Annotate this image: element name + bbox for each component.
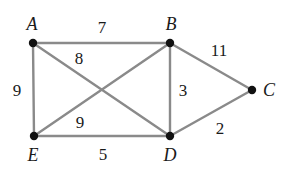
graph-vertex [29, 39, 37, 47]
graph-canvas [0, 0, 289, 171]
graph-vertex [248, 86, 256, 94]
edge-weight-label: 7 [98, 19, 107, 36]
edge-weight-label: 11 [211, 42, 227, 59]
edge-weight-label: 8 [75, 50, 84, 67]
vertex-label: D [164, 146, 177, 164]
edge-weight-label: 9 [13, 82, 22, 99]
graph-vertex [166, 39, 174, 47]
vertex-label: E [28, 146, 39, 164]
graph-vertex [166, 132, 174, 140]
edge-weight-label: 3 [179, 82, 188, 99]
graph-edge [33, 43, 34, 136]
graph-vertex [30, 132, 38, 140]
vertex-label: C [263, 81, 275, 99]
edge-weight-label: 5 [99, 146, 108, 163]
graph-diagram: 798953112 ABCDE [0, 0, 289, 171]
vertex-label: A [27, 15, 38, 33]
edge-weight-label: 2 [216, 120, 225, 137]
edge-weight-label: 9 [76, 114, 85, 131]
vertex-label: B [166, 15, 177, 33]
